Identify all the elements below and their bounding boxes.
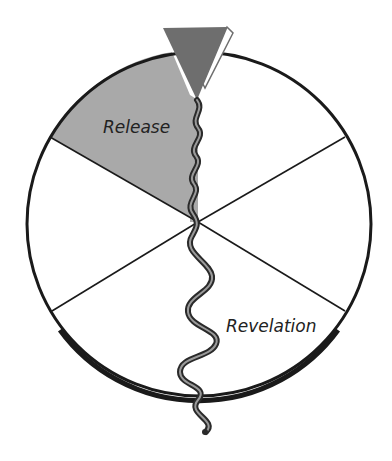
- spoke-lower-right: [198, 222, 345, 311]
- spoke-upper-right: [198, 137, 345, 222]
- revelation-label: Revelation: [226, 316, 317, 336]
- wheel-diagram: [0, 0, 392, 461]
- release-label: Release: [103, 117, 170, 137]
- release-segment: [50, 52, 198, 222]
- spoke-lower-left: [52, 222, 198, 311]
